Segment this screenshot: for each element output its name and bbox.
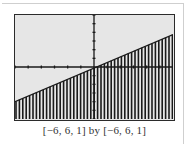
window-caption: [−6, 6, 1] by [−6, 6, 1] <box>0 124 189 136</box>
figure-card <box>2 3 184 144</box>
calculator-screen <box>14 14 175 121</box>
inequality-graph <box>15 15 173 119</box>
